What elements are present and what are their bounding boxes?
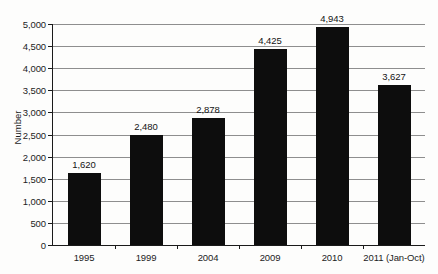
gridline — [53, 24, 425, 25]
gridline — [53, 135, 425, 136]
y-axis-tick-label: 3,000 — [23, 107, 46, 118]
plot-area — [53, 24, 425, 245]
y-axis-tick — [48, 24, 53, 25]
y-axis-tick-label: 1,000 — [23, 195, 46, 206]
bar-value-label: 2,480 — [120, 121, 172, 132]
y-axis-tick-label: 1,500 — [23, 173, 46, 184]
y-axis-tick — [48, 157, 53, 158]
y-axis-tick-label: 500 — [30, 217, 46, 228]
chart-figure: 05001,0001,5002,0002,5003,0003,5004,0004… — [0, 0, 438, 274]
bar-value-label: 4,425 — [244, 35, 296, 46]
bar-value-label: 1,620 — [58, 159, 110, 170]
y-axis-tick — [48, 68, 53, 69]
bar — [378, 85, 411, 245]
bar — [316, 27, 349, 245]
y-axis-tick — [48, 223, 53, 224]
gridline — [53, 201, 425, 202]
y-axis-tick-label: 2,500 — [23, 129, 46, 140]
y-axis-tick — [48, 245, 53, 246]
y-axis-tick-label: 4,500 — [23, 41, 46, 52]
y-axis-tick-label: 0 — [41, 240, 46, 251]
x-axis-tick — [177, 245, 178, 249]
gridline — [53, 68, 425, 69]
gridline — [53, 179, 425, 180]
y-axis-tick-label: 4,000 — [23, 63, 46, 74]
y-axis-tick — [48, 90, 53, 91]
x-axis-category-label: 2011 (Jan-Oct) — [354, 252, 434, 263]
bar — [68, 173, 101, 245]
y-axis-title: Number — [12, 98, 23, 158]
gridline — [53, 90, 425, 91]
y-axis-tick — [48, 112, 53, 113]
bar-value-label: 2,878 — [182, 104, 234, 115]
y-axis-tick — [48, 179, 53, 180]
gridline — [53, 223, 425, 224]
x-axis-tick — [363, 245, 364, 249]
bar — [130, 135, 163, 245]
y-axis-tick-label: 3,500 — [23, 85, 46, 96]
y-axis-tick — [48, 46, 53, 47]
y-axis-tick — [48, 135, 53, 136]
gridline — [53, 157, 425, 158]
gridline — [53, 46, 425, 47]
bar — [192, 118, 225, 245]
x-axis-tick — [115, 245, 116, 249]
x-axis-tick — [301, 245, 302, 249]
bar — [254, 49, 287, 245]
bar-value-label: 4,943 — [306, 13, 358, 24]
x-axis-tick — [239, 245, 240, 249]
y-axis-labels: 05001,0001,5002,0002,5003,0003,5004,0004… — [0, 0, 46, 274]
y-axis-tick — [48, 201, 53, 202]
gridline — [53, 112, 425, 113]
y-axis-tick-label: 2,000 — [23, 151, 46, 162]
bar-value-label: 3,627 — [368, 71, 420, 82]
y-axis-tick-label: 5,000 — [23, 19, 46, 30]
